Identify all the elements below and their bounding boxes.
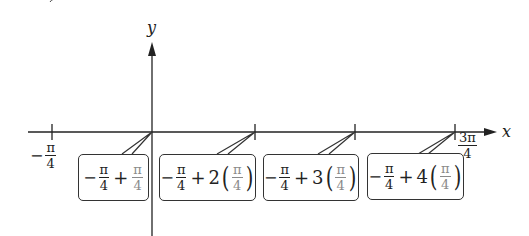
- cropped-top-line: [50, 0, 320, 2]
- coefficient: 2: [209, 167, 220, 188]
- faded-fraction: π4: [440, 162, 451, 191]
- fraction: π 4: [45, 141, 56, 170]
- callout-pointer-2: [217, 132, 255, 154]
- x-axis-label: x: [502, 122, 511, 141]
- callout-pointer-3: [318, 132, 355, 154]
- y-axis-arrow-icon: [148, 42, 156, 56]
- callout-box-3: − π4 + 3 ( π4 ): [263, 154, 359, 201]
- faded-fraction: π4: [132, 163, 143, 192]
- callout-pointer-1: [122, 132, 152, 154]
- fraction: π4: [279, 163, 290, 192]
- right-paren: ): [453, 163, 461, 191]
- x-axis-arrow-icon: [484, 128, 497, 136]
- fraction: π4: [99, 163, 110, 192]
- right-paren: ): [245, 164, 253, 192]
- left-paren: (: [222, 164, 230, 192]
- y-axis-label: y: [147, 18, 156, 37]
- callout-pointer-4: [418, 132, 455, 154]
- tick-label-neg-pi-over-4: − π 4: [30, 141, 57, 170]
- right-paren: ): [349, 164, 357, 192]
- fraction: π4: [384, 162, 395, 191]
- callout-box-4: − π4 + 4 ( π4 ): [367, 153, 464, 200]
- faded-fraction: π4: [232, 163, 243, 192]
- fraction: π4: [176, 163, 187, 192]
- left-paren: (: [430, 163, 438, 191]
- minus-sign: −: [30, 146, 43, 165]
- coefficient: 3: [312, 167, 323, 188]
- axes-canvas: [0, 0, 529, 236]
- coefficient: 4: [417, 166, 428, 187]
- callout-box-1: − π4 + π4: [78, 154, 149, 201]
- faded-fraction: π4: [335, 163, 346, 192]
- left-paren: (: [325, 164, 333, 192]
- callout-box-2: − π4 + 2 ( π4 ): [159, 154, 256, 201]
